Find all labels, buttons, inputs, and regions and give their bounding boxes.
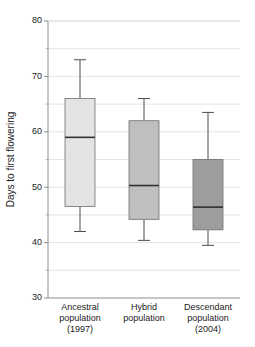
plot-svg: 304050607080 Days to first flowering Anc… — [0, 0, 255, 347]
box-rect — [65, 99, 95, 207]
y-tick-label-50: 50 — [32, 182, 42, 192]
y-axis-title: Days to first flowering — [5, 112, 16, 208]
category-label-3: Descendantpopulation(2004) — [184, 302, 233, 334]
y-tick-label-80: 80 — [32, 15, 42, 25]
box-rect — [193, 160, 223, 230]
y-tick-label-70: 70 — [32, 71, 42, 81]
box-rect — [129, 121, 159, 220]
category-label-line: Hybrid — [131, 302, 157, 312]
y-tick-label-30: 30 — [32, 292, 42, 302]
category-label-line: Ancestral — [61, 302, 99, 312]
category-label-1: Ancestralpopulation(1997) — [59, 302, 101, 334]
box-plot-group-1 — [65, 60, 95, 232]
category-label-line: Descendant — [184, 302, 233, 312]
category-label-line: population — [187, 313, 229, 323]
y-axis-tick-labels-group: 304050607080 — [32, 15, 42, 302]
category-label-line: population — [123, 313, 165, 323]
category-labels-group: Ancestralpopulation(1997)Hybridpopulatio… — [59, 302, 232, 334]
box-plot-group-2 — [129, 99, 159, 241]
y-tick-label-40: 40 — [32, 237, 42, 247]
category-label-line: population — [59, 313, 101, 323]
box-plot-group-3 — [193, 112, 223, 245]
category-label-line: (2004) — [195, 324, 221, 334]
y-tick-label-60: 60 — [32, 126, 42, 136]
category-label-2: Hybridpopulation — [123, 302, 165, 323]
y-axis-ticks-group — [44, 21, 48, 298]
box-plot-chart: 304050607080 Days to first flowering Anc… — [0, 0, 255, 347]
category-label-line: (1997) — [67, 324, 93, 334]
boxes-group — [65, 60, 223, 246]
